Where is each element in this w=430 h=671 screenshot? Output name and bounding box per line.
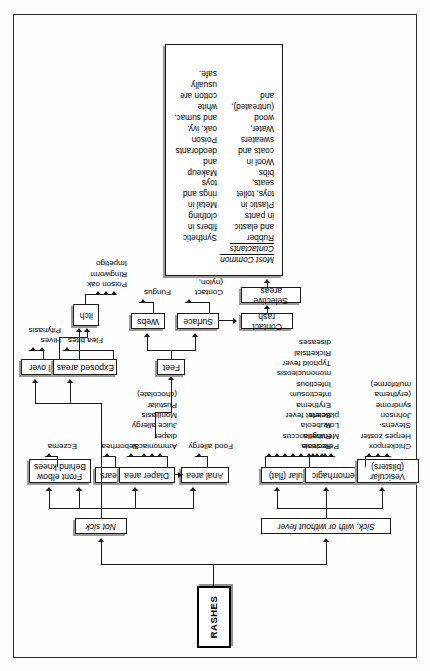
contactants-column-right: Synthetic fibers in clothing Metal in ri… — [174, 68, 217, 243]
rail-itch-stub — [85, 294, 86, 304]
leaves-all-over: Hives Pityriasis — [21, 325, 61, 345]
connector-notsick-to-elbow — [49, 490, 50, 509]
arrow-anal-leaf — [196, 453, 202, 457]
connector-root-to-sick — [326, 541, 327, 565]
node-surface: Surface — [177, 313, 219, 329]
leaves-hemorrhagic: Petechiae Meningococcus Low platelets — [305, 431, 339, 451]
arrow-webs-leaf — [140, 299, 146, 303]
rail-ears-stub — [115, 456, 116, 467]
contactants-column-left: Rubber and elastic in pants Plastic in t… — [231, 68, 274, 243]
connector-rightcluster-riser — [35, 403, 102, 404]
connector-root-trunk — [213, 564, 214, 586]
connector-sick-to-hemorrhagic — [326, 490, 327, 509]
arrow-notsick-to-anal — [190, 487, 196, 491]
arrow-to-feet — [168, 376, 174, 380]
connector-feet-stub — [171, 350, 172, 359]
node-diaper-area: Diaper area — [119, 467, 175, 483]
connector-to-allover — [35, 382, 36, 404]
connector-kink-v — [155, 412, 171, 413]
arrow-root-to-sick — [323, 538, 329, 542]
arrow-surface-leaf — [186, 299, 192, 303]
node-selective-areas: Selective areas — [241, 287, 301, 303]
connector-notsick-to-ears — [79, 490, 80, 509]
most-common-contactants-panel: Most Common Contactants Rubber and elast… — [165, 44, 283, 276]
node-not-sick: Not sick — [75, 518, 127, 534]
arrow-notsick-to-diaper — [132, 487, 138, 491]
leaves-elbow-knees: Eczema — [37, 435, 77, 451]
node-sick: Sick, with or without fever — [261, 518, 391, 534]
arrow-exposed-to-itch — [76, 328, 82, 332]
connector-to-exposed — [70, 382, 71, 404]
leaves-anal-area: Food allergy — [187, 435, 233, 451]
connector-sick-to-vesicular — [382, 490, 383, 509]
connector-notsick-to-diaper — [135, 490, 136, 509]
page-root: RASHES Sick, with or without fever Macul — [0, 0, 430, 671]
node-anal-area: Anal area — [181, 467, 229, 483]
rail-diaper-stub — [167, 456, 168, 467]
node-feet: Feet — [157, 359, 185, 375]
arrow-vesicular-leaf-1 — [366, 453, 372, 457]
arrow-macular-leaf-4 — [290, 453, 296, 457]
rail-surface-stub — [209, 302, 210, 313]
node-rashes: RASHES — [197, 586, 231, 648]
connector-sick-to-macular — [277, 490, 278, 509]
arrow-itch-leaf-2 — [103, 291, 109, 295]
connector-feet-to-webs — [147, 336, 148, 351]
node-itch: itch — [73, 304, 99, 326]
arrow-elbow-leaf — [46, 453, 52, 457]
node-vesicular: Vesicular (blisters) — [357, 459, 419, 483]
leaves-webs: Fungus — [131, 281, 171, 297]
node-elbow-knees: Front elbow Behind knees — [29, 459, 91, 483]
arrow-sick-to-hemorrhagic — [323, 487, 329, 491]
arrow-root-to-notsick — [98, 538, 104, 542]
rail-exposed-stub — [113, 350, 114, 359]
arrow-surface-to-contactrash — [233, 318, 237, 324]
arrow-vesicular-leaf-3 — [384, 453, 390, 457]
leaves-diaper-area: Ammoniacal diaper Juice allergy Monilias… — [115, 417, 177, 451]
rail-elbow-stub — [57, 456, 58, 467]
connector-allover-to-itch-a — [59, 337, 60, 359]
arrow-to-allover — [32, 379, 38, 383]
rail-hemorrhagic-stub — [309, 456, 310, 467]
arrow-feet-to-webs — [144, 333, 150, 337]
connector-root-split — [101, 564, 327, 565]
connector-notsick-stub — [101, 508, 102, 518]
node-exposed-areas: Exposed areas — [53, 359, 117, 375]
arrow-selective-to-contactants — [264, 279, 270, 283]
rail-allover-stub — [43, 350, 44, 359]
arrow-vesicular-leaf-2 — [375, 453, 381, 457]
connector-notsick-lower-right-a — [155, 412, 156, 438]
node-webs: Webs — [131, 313, 165, 329]
arrow-sick-to-macular — [274, 487, 280, 491]
arrow-notsick-to-elbow — [46, 487, 52, 491]
arrow-macular-leaf-5 — [298, 453, 304, 457]
arrow-itch-leaf-3 — [111, 291, 117, 295]
arrow-diaper-leaf-4 — [157, 453, 163, 457]
arrow-allover-to-itch — [84, 328, 90, 332]
arrow-hemorrhagic-leaf-2 — [319, 453, 325, 457]
contactants-caption: Most Common Contactants — [181, 243, 274, 265]
rail-macular-stub — [265, 456, 266, 467]
rail-vesicular-stub — [365, 456, 366, 467]
rail-exposed — [63, 350, 113, 351]
arrow-itch-leaf-1 — [95, 291, 101, 295]
arrow-macular-leaf-2 — [274, 453, 280, 457]
arrow-ears-leaf — [104, 453, 110, 457]
arrow-to-exposed — [67, 379, 73, 383]
arrow-diaper-leaf-2 — [141, 453, 147, 457]
connector-root-to-notsick — [101, 541, 102, 565]
arrow-exposed-leaf-1 — [64, 347, 70, 351]
connector-notsick-to-anal — [193, 490, 194, 509]
arrow-diaper-to-anal — [178, 472, 182, 478]
diagram-frame: RASHES Sick, with or without fever Macul — [13, 14, 417, 658]
leaves-vesicular: Chickenpox Herpes zoster Stevens-Johnson… — [359, 417, 411, 451]
arrow-hemorrhagic-leaf-1 — [310, 453, 316, 457]
arrow-diaper-leaf-1 — [128, 453, 134, 457]
connector-sick-spine — [277, 508, 383, 509]
arrow-notsick-to-ears — [76, 487, 82, 491]
arrow-feet-to-surface — [192, 333, 198, 337]
arrow-macular-leaf-3 — [282, 453, 288, 457]
rail-webs-stub — [153, 302, 154, 313]
arrow-contactrash-to-selective — [264, 305, 270, 309]
arrow-diaper-leaf-3 — [149, 453, 155, 457]
